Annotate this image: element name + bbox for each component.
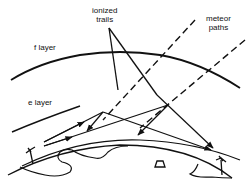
label-meteor-paths: meteor paths xyxy=(206,14,231,32)
island xyxy=(155,161,165,167)
trail-reflection-short xyxy=(87,112,103,131)
label-ionized: ionized xyxy=(92,6,117,15)
radio-ray-down-2 xyxy=(157,95,213,148)
label-f-layer: f layer xyxy=(34,43,56,52)
label-paths: paths xyxy=(206,23,231,32)
arrow-up-2 xyxy=(44,137,72,146)
meteor-path-2 xyxy=(140,40,245,128)
e-layer-curve xyxy=(12,106,80,132)
ionized-trail-pointer-1 xyxy=(109,28,118,90)
f-layer-curve xyxy=(11,52,240,88)
ionized-trail-pointer-2 xyxy=(109,28,157,95)
label-trails: trails xyxy=(92,15,117,24)
label-meteor: meteor xyxy=(206,14,231,23)
continent-right xyxy=(190,164,232,178)
label-e-layer: e layer xyxy=(28,98,52,107)
meteor-burst-diagram: ionized trails meteor paths f layer e la… xyxy=(0,0,247,189)
meteor-path-1 xyxy=(103,20,195,120)
label-ionized-trails: ionized trails xyxy=(92,6,117,24)
earth-horizon xyxy=(8,145,232,178)
